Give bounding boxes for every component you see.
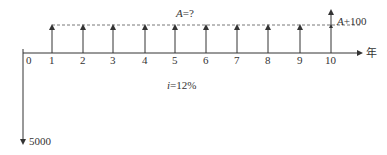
svg-text:2: 2	[80, 54, 86, 66]
initial-outflow-label: 5000	[29, 135, 52, 147]
svg-text:0: 0	[26, 54, 32, 66]
svg-text:4: 4	[142, 54, 148, 66]
interest-rate-label: i=12%	[167, 79, 196, 91]
svg-text:8: 8	[265, 54, 271, 66]
cash-flow-diagram: 0 1 2 3 4 5 6 7 8 9 10 年 A=? A+100 i=12%…	[0, 0, 387, 155]
svg-text:6: 6	[203, 54, 209, 66]
svg-text:3: 3	[110, 54, 116, 66]
svg-text:5: 5	[172, 54, 178, 66]
annuity-arrows	[52, 27, 300, 53]
axis-unit-label: 年	[366, 46, 377, 59]
period-labels: 0 1 2 3 4 5 6 7 8 9 10	[26, 54, 337, 66]
svg-text:1: 1	[49, 54, 55, 66]
svg-text:10: 10	[325, 54, 337, 66]
annuity-label: A=?	[175, 7, 194, 19]
svg-text:9: 9	[297, 54, 303, 66]
final-payment-label: A+100	[336, 15, 367, 27]
svg-text:7: 7	[234, 54, 240, 66]
